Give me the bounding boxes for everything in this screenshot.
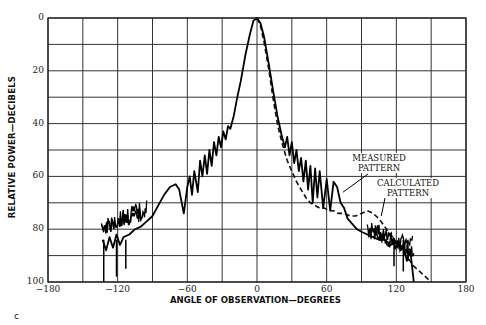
x-tick-label: −180 xyxy=(28,284,68,294)
measured-pattern-annotation: MEASUREDPATTERN xyxy=(348,153,410,173)
annotation-line: PATTERN xyxy=(373,188,443,198)
x-tick-label: 120 xyxy=(376,284,416,294)
measured-noise-floor xyxy=(101,201,413,283)
y-tick-label: 20 xyxy=(24,65,44,75)
annotation-line: CALCULATED xyxy=(373,178,443,188)
x-tick-label: 60 xyxy=(307,284,347,294)
x-tick-label: −60 xyxy=(167,284,207,294)
y-tick-label: 60 xyxy=(24,170,44,180)
leader-line xyxy=(381,198,385,216)
y-tick-label: 40 xyxy=(24,118,44,128)
annotation-line: PATTERN xyxy=(348,163,410,173)
annotation-line: MEASURED xyxy=(348,153,410,163)
calculated-pattern-annotation: CALCULATEDPATTERN xyxy=(373,178,443,198)
y-tick-label: 80 xyxy=(24,223,44,233)
panel-label: c xyxy=(14,311,19,321)
x-tick-label: −120 xyxy=(98,284,138,294)
x-tick-label: 180 xyxy=(446,284,486,294)
radiation-pattern-chart xyxy=(0,0,486,325)
x-axis-label: ANGLE OF OBSERVATION—DEGREES xyxy=(170,295,341,305)
y-tick-label: 0 xyxy=(24,12,44,22)
x-tick-label: 0 xyxy=(237,284,277,294)
y-axis-label: RELATIVE POWER—DECIBELS xyxy=(7,57,17,237)
